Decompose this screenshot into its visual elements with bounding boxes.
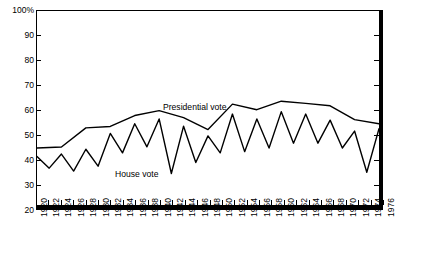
x-axis-label: 1956 (263, 198, 272, 217)
house-vote-label: House vote (115, 169, 158, 179)
x-axis-label: 1944 (188, 198, 197, 217)
x-axis-label: 1928 (89, 198, 98, 217)
x-axis-label: 1922 (52, 198, 61, 217)
x-axis-tick (346, 200, 347, 205)
x-axis-label: 1974 (374, 198, 383, 217)
x-axis-tick (271, 200, 272, 205)
x-axis-label: 1942 (176, 198, 185, 217)
x-axis-tick (86, 200, 87, 205)
y-axis-tick-right (374, 60, 379, 61)
turnout-line-chart: 100%9080706050403020 Presidential vote H… (0, 0, 421, 261)
x-axis-tick (321, 200, 322, 205)
y-axis: 100%9080706050403020 (0, 0, 34, 215)
y-axis-tick-right (374, 35, 379, 36)
x-axis-tick (383, 200, 384, 205)
y-axis-tick-right (374, 85, 379, 86)
x-axis-label: 1934 (126, 198, 135, 217)
y-axis-label: 70 (25, 81, 34, 89)
x-axis-tick (222, 200, 223, 205)
y-axis-label: 30 (25, 181, 34, 189)
x-axis-tick (36, 200, 37, 205)
x-axis-label: 1958 (275, 198, 284, 217)
x-axis-tick (309, 200, 310, 205)
x-axis-label: 1940 (164, 198, 173, 217)
x-axis-label: 1938 (151, 198, 160, 217)
y-axis-tick-right (374, 110, 379, 111)
x-axis-label: 1968 (337, 198, 346, 217)
x-axis-label: 1962 (300, 198, 309, 217)
x-axis-label: 1950 (225, 198, 234, 217)
y-axis-tick-right (374, 185, 379, 186)
x-axis-tick (247, 200, 248, 205)
x-axis-tick (210, 200, 211, 205)
x-axis-tick (371, 200, 372, 205)
house-vote-line (37, 112, 379, 174)
y-axis-label: 80 (25, 56, 34, 64)
x-axis-label: 1972 (362, 198, 371, 217)
y-axis-tick (36, 60, 41, 61)
presidential-vote-label: Presidential vote (163, 102, 227, 112)
x-axis-label: 1930 (102, 198, 111, 217)
x-axis-label: 1952 (238, 198, 247, 217)
y-axis-tick (36, 85, 41, 86)
x-axis-tick (172, 200, 173, 205)
y-axis-tick (36, 185, 41, 186)
y-axis-tick (36, 135, 41, 136)
x-axis-tick (160, 200, 161, 205)
x-axis-tick (135, 200, 136, 205)
x-axis-label: 1920 (40, 198, 49, 217)
x-axis-tick (110, 200, 111, 205)
x-axis-tick (259, 200, 260, 205)
y-axis-label: 20 (25, 206, 34, 214)
x-axis-tick (296, 200, 297, 205)
x-axis-tick (48, 200, 49, 205)
y-axis-tick (36, 160, 41, 161)
x-axis-label: 1924 (64, 198, 73, 217)
x-axis-label: 1948 (213, 198, 222, 217)
x-axis-tick (333, 200, 334, 205)
x-axis-tick (234, 200, 235, 205)
x-axis-label: 1946 (201, 198, 210, 217)
y-axis-tick-right (374, 160, 379, 161)
y-axis-label: 90 (25, 31, 34, 39)
y-axis-tick-right (374, 135, 379, 136)
y-axis-label: 50 (25, 131, 34, 139)
y-axis-tick (36, 35, 41, 36)
x-axis-label: 1970 (349, 198, 358, 217)
x-axis-label: 1954 (250, 198, 259, 217)
x-axis-tick (61, 200, 62, 205)
x-axis-label: 1964 (312, 198, 321, 217)
x-axis-label: 1936 (139, 198, 148, 217)
x-axis-tick (197, 200, 198, 205)
y-axis-label: 100% (12, 6, 34, 14)
x-axis-tick (123, 200, 124, 205)
x-axis-label: 1926 (77, 198, 86, 217)
x-axis-tick (358, 200, 359, 205)
y-axis-tick (36, 110, 41, 111)
x-axis-tick (98, 200, 99, 205)
x-axis-label: 1932 (114, 198, 123, 217)
y-axis-label: 60 (25, 106, 34, 114)
x-axis-tick (148, 200, 149, 205)
x-axis-label: 1966 (325, 198, 334, 217)
x-axis-label: 1960 (287, 198, 296, 217)
y-axis-label: 40 (25, 156, 34, 164)
x-axis-tick (185, 200, 186, 205)
x-axis-label: 1976 (387, 198, 396, 217)
x-axis-tick (73, 200, 74, 205)
x-axis-tick (284, 200, 285, 205)
